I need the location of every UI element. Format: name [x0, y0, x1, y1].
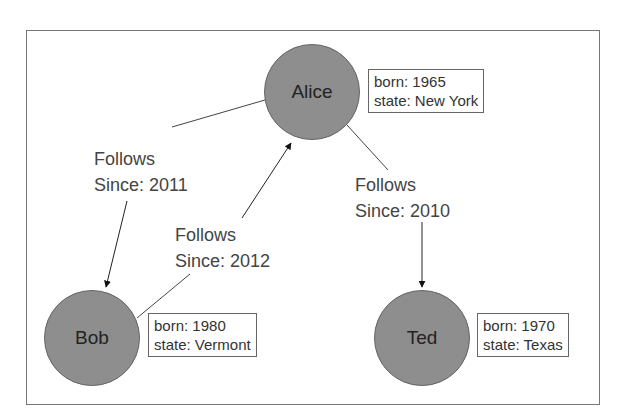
node-label: Ted [407, 327, 438, 349]
edge-alice-bob-arrow [106, 201, 127, 287]
node-label: Alice [291, 81, 332, 103]
edge-label-bob-alice: Follows Since: 2012 [175, 222, 270, 274]
edge-since: Since: 2011 [94, 172, 188, 198]
edge-type: Follows [175, 222, 270, 248]
edge-alice-bob-segment-1 [172, 100, 265, 127]
property-born: born: 1965 [374, 72, 478, 91]
property-born: born: 1980 [154, 316, 251, 335]
node-ted[interactable]: Ted [374, 290, 470, 386]
edge-since: Since: 2010 [355, 198, 450, 224]
property-born: born: 1970 [483, 316, 563, 335]
node-alice-properties: born: 1965 state: New York [368, 69, 484, 113]
edge-type: Follows [94, 146, 188, 172]
edge-bob-alice-arrow [242, 143, 291, 218]
node-bob-properties: born: 1980 state: Vermont [148, 313, 257, 357]
node-bob[interactable]: Bob [44, 290, 140, 386]
graph-diagram: Alice born: 1965 state: New York Bob bor… [0, 0, 620, 420]
node-alice[interactable]: Alice [264, 44, 360, 140]
edge-type: Follows [355, 172, 450, 198]
edge-label-alice-ted: Follows Since: 2010 [355, 172, 450, 224]
property-state: state: New York [374, 91, 478, 110]
property-state: state: Texas [483, 335, 563, 354]
edge-bob-alice-segment-1 [137, 274, 190, 318]
edge-since: Since: 2012 [175, 248, 270, 274]
node-ted-properties: born: 1970 state: Texas [477, 313, 569, 357]
edge-alice-ted-segment-1 [347, 125, 388, 170]
property-state: state: Vermont [154, 335, 251, 354]
edge-label-alice-bob: Follows Since: 2011 [94, 146, 188, 198]
node-label: Bob [75, 327, 109, 349]
